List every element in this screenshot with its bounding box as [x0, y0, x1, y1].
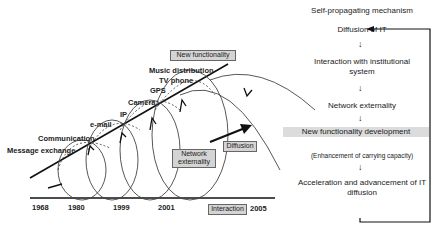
flow-step-new-functionality: New functionality development [283, 127, 429, 137]
milestone-tv-phone: TV phone [159, 76, 193, 85]
network-externality-box: Network externality [172, 149, 216, 168]
down-arrow-icon: ↓ [358, 40, 363, 49]
milestone-ip: IP [120, 110, 127, 119]
milestone-message-exchange: Message exchange [7, 146, 75, 155]
down-arrow-icon: ↓ [358, 114, 363, 123]
flow-step-acceleration: Acceleration and advancement of IT diffu… [288, 178, 436, 198]
diffusion-box: Diffusion [223, 141, 257, 152]
year-2001: 2001 [158, 203, 175, 212]
milestone-camera: Camera [128, 98, 156, 107]
flow-title: Self-propagating mechanism [288, 6, 436, 16]
year-1980: 1980 [68, 203, 85, 212]
flow-step-diffusion-of-it: Diffusion of IT [288, 25, 436, 35]
milestone-email: e-mail [90, 120, 112, 129]
network-externality-line2: externality [173, 158, 215, 166]
milestone-music-distribution: Music distribution [149, 66, 214, 75]
milestone-gps: GPS [150, 86, 166, 95]
down-arrow-icon: ↓ [358, 84, 363, 93]
interaction-box: Interaction [208, 204, 247, 215]
flow-step-interaction: Interaction with institutional system [288, 57, 436, 77]
milestone-communication: Communication [38, 134, 95, 143]
year-1999: 1999 [113, 203, 130, 212]
down-arrow-icon: ↓ [358, 163, 363, 172]
network-externality-line1: Network [173, 150, 215, 158]
flow-step-network-externality: Network externality [288, 101, 436, 111]
flow-step-enhancement: (Enhancement of carrying capacity) [288, 151, 436, 161]
year-2005: 2005 [250, 204, 267, 213]
new-functionality-box: New functionality [170, 50, 236, 61]
year-1968: 1968 [32, 203, 49, 212]
